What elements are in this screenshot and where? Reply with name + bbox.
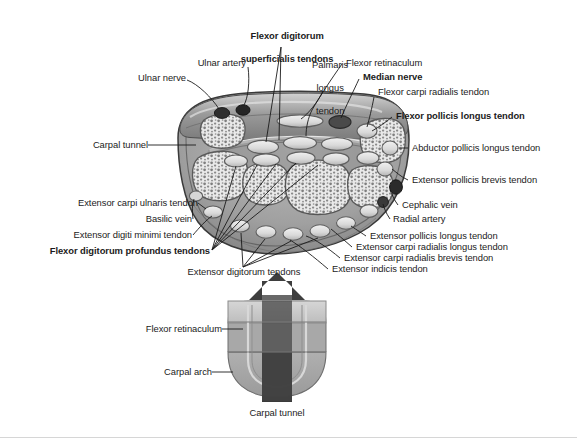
label-extensor-pollicis-brevis: Extensor pollicis brevis tendon — [412, 174, 537, 185]
label-palmaris-longus: Palmaris longus tendon — [297, 48, 353, 128]
label-fds-line1: Flexor digitorum — [251, 30, 324, 41]
label-palmaris-line1: Palmaris — [312, 59, 348, 70]
label-extensor-digitorum: Extensor digitorum tendons — [160, 266, 328, 277]
label-flexor-digitorum-profundus: Flexor digitorum profundus tendons — [18, 245, 210, 256]
label-carpal-tunnel-section: Carpal tunnel — [80, 139, 148, 150]
label-lower-carpal-tunnel: Carpal tunnel — [232, 407, 322, 418]
radial-artery-structure — [390, 180, 403, 194]
label-cephalic-vein: Cephalic vein — [402, 199, 458, 210]
label-ulnar-nerve: Ulnar nerve — [104, 72, 186, 83]
label-radial-artery: Radial artery — [393, 213, 446, 224]
label-lower-carpal-arch: Carpal arch — [142, 366, 212, 377]
ulnar-artery-structure — [214, 108, 229, 119]
label-abductor-pollicis-longus: Abductor pollicis longus tendon — [412, 142, 540, 153]
label-extensor-carpi-ulnaris: Extensor carpi ulnaris tendon — [28, 197, 198, 208]
label-flexor-pollicis-longus: Flexor pollicis longus tendon — [396, 110, 525, 121]
label-extensor-digiti-minimi: Extensor digiti minimi tendon — [56, 229, 192, 240]
label-palmaris-line3: tendon — [316, 105, 344, 116]
label-extensor-carpi-radialis-brevis: Extensor carpi radialis brevis tendon — [344, 252, 493, 263]
label-extensor-indicis: Extensor indicis tendon — [332, 263, 428, 274]
label-palmaris-line2: longus — [316, 82, 343, 93]
label-flexor-carpi-radialis: Flexor carpi radialis tendon — [378, 86, 489, 97]
ulnar-nerve-structure — [236, 105, 250, 115]
label-ulnar-artery: Ulnar artery — [164, 57, 246, 68]
figure-canvas: Flexor digitorum superficialis tendons P… — [0, 0, 577, 438]
label-extensor-pollicis-longus: Extensor pollicis longus tendon — [370, 230, 498, 241]
label-flexor-retinaculum: Flexor retinaculum — [346, 57, 422, 68]
label-basilic-vein: Basilic vein — [110, 213, 192, 224]
carpal-arch-schematic — [228, 272, 326, 402]
label-extensor-carpi-radialis-longus: Extensor carpi radialis longus tendon — [356, 241, 508, 252]
label-lower-flexor-retinaculum: Flexor retinaculum — [124, 323, 222, 334]
label-median-nerve: Median nerve — [363, 71, 422, 82]
